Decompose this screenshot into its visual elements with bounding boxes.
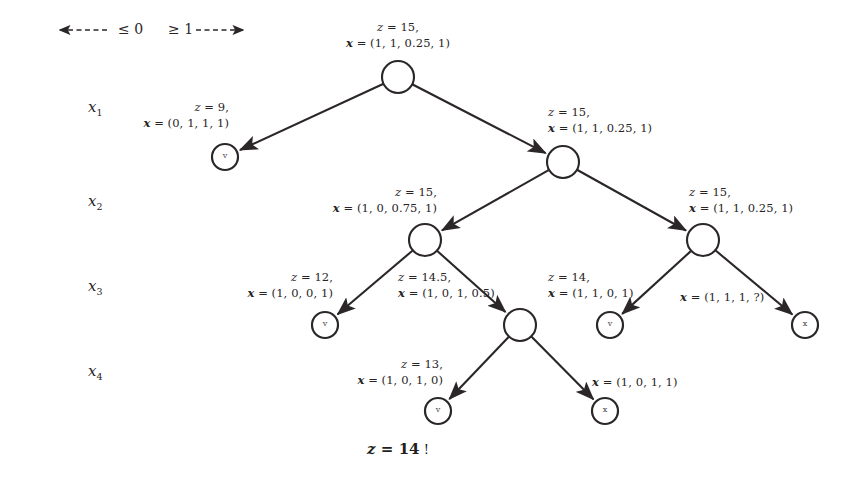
node-label-n3-a-z: z = 12, bbox=[0, 270, 333, 286]
node-label-n3-c-x: x = (1, 1, 0, 1) bbox=[548, 286, 634, 302]
node-label-n4-b-x: x = (1, 0, 1, 1) bbox=[592, 375, 678, 391]
node-label-n1-left-x: x = (0, 1, 1, 1) bbox=[0, 116, 229, 132]
tree-node-n1-right[interactable] bbox=[547, 146, 579, 178]
node-label-n3-d: x = (1, 1, 1, ?) bbox=[680, 290, 764, 306]
node-label-n1-left: z = 9,x = (0, 1, 1, 1) bbox=[0, 100, 229, 132]
tree-edge-n3-b-to-n4-b bbox=[532, 337, 594, 400]
node-label-n4-a-x: x = (1, 0, 1, 0) bbox=[0, 373, 443, 389]
node-label-n2-left-x: x = (1, 0, 0.75, 1) bbox=[0, 201, 437, 217]
tree-node-n1-left[interactable] bbox=[212, 144, 238, 170]
tree-diagram-canvas bbox=[0, 0, 850, 483]
node-label-n4-b: x = (1, 0, 1, 1) bbox=[592, 375, 678, 391]
node-label-n1-right-x: x = (1, 1, 0.25, 1) bbox=[548, 121, 652, 137]
tree-edge-n1-right-to-n2-left bbox=[442, 170, 549, 230]
node-label-n1-right-z: z = 15, bbox=[548, 105, 652, 121]
tree-node-n3-c[interactable] bbox=[597, 312, 623, 338]
tree-edge-root-to-n1-right bbox=[413, 85, 546, 154]
node-label-n3-a: z = 12,x = (1, 0, 0, 1) bbox=[0, 270, 333, 302]
tree-edge-n3-b-to-n4-a bbox=[449, 337, 508, 399]
node-label-n2-right-z: z = 15, bbox=[689, 185, 793, 201]
node-label-n2-left: z = 15,x = (1, 0, 0.75, 1) bbox=[0, 185, 437, 217]
result-equals: = bbox=[376, 440, 399, 458]
tree-node-n3-b[interactable] bbox=[504, 309, 536, 341]
result-label: z = 14 ! bbox=[367, 440, 429, 458]
result-bang: ! bbox=[420, 442, 429, 457]
tree-node-n4-a[interactable] bbox=[425, 398, 451, 424]
result-value: 14 bbox=[399, 440, 420, 458]
tree-node-n2-left[interactable] bbox=[409, 224, 441, 256]
node-label-n3-c: z = 14,x = (1, 1, 0, 1) bbox=[548, 270, 634, 302]
node-label-n3-b: z = 14.5,x = (1, 0, 1, 0.5) bbox=[398, 270, 495, 302]
node-label-n2-right: z = 15,x = (1, 1, 0.25, 1) bbox=[689, 185, 793, 217]
tree-edge-n1-right-to-n2-right bbox=[577, 170, 686, 230]
node-label-n1-left-z: z = 9, bbox=[0, 100, 229, 116]
node-label-root-z: z = 15, bbox=[278, 20, 518, 36]
result-z-symbol: z bbox=[367, 440, 376, 458]
node-label-root: z = 15,x = (1, 1, 0.25, 1) bbox=[278, 20, 518, 52]
node-label-n3-c-z: z = 14, bbox=[548, 270, 634, 286]
tree-edge-root-to-n1-left bbox=[240, 84, 383, 150]
node-label-n2-left-z: z = 15, bbox=[0, 185, 437, 201]
tree-node-root[interactable] bbox=[382, 61, 414, 93]
tree-node-n3-a[interactable] bbox=[312, 312, 338, 338]
node-label-root-x: x = (1, 1, 0.25, 1) bbox=[278, 36, 518, 52]
tree-node-n4-b[interactable] bbox=[592, 398, 618, 424]
node-label-n1-right: z = 15,x = (1, 1, 0.25, 1) bbox=[548, 105, 652, 137]
legend-left-label: ≤ 0 bbox=[118, 21, 143, 37]
node-label-n2-right-x: x = (1, 1, 0.25, 1) bbox=[689, 201, 793, 217]
node-label-n4-a: z = 13,x = (1, 0, 1, 0) bbox=[0, 357, 443, 389]
tree-node-n3-d[interactable] bbox=[792, 312, 818, 338]
node-label-n3-b-x: x = (1, 0, 1, 0.5) bbox=[398, 286, 495, 302]
node-label-n3-a-x: x = (1, 0, 0, 1) bbox=[0, 286, 333, 302]
node-label-n3-d-x: x = (1, 1, 1, ?) bbox=[680, 290, 764, 306]
node-label-n3-b-z: z = 14.5, bbox=[398, 270, 495, 286]
legend-right-label: ≥ 1 bbox=[168, 21, 193, 37]
node-label-n4-a-z: z = 13, bbox=[0, 357, 443, 373]
tree-node-n2-right[interactable] bbox=[687, 224, 719, 256]
